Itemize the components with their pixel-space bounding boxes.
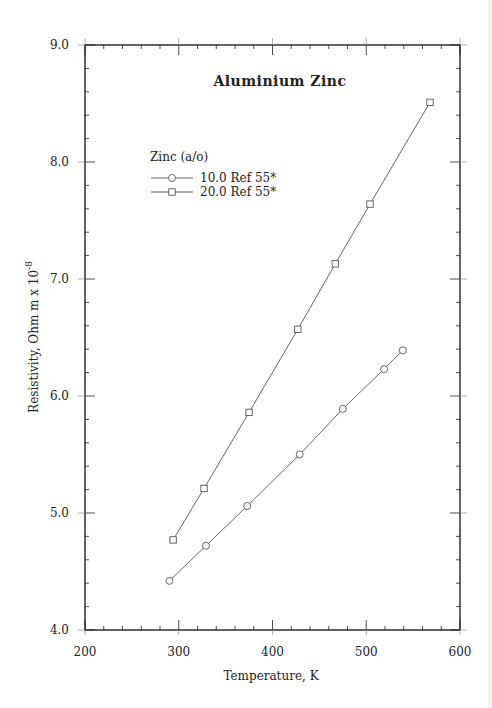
x-tick-label: 400	[261, 645, 284, 659]
series-circle	[166, 347, 406, 584]
square-marker-icon	[201, 485, 207, 491]
plot-frame	[85, 45, 460, 630]
square-marker-icon	[332, 261, 338, 267]
circle-marker-icon	[381, 366, 388, 373]
square-marker-icon	[169, 189, 175, 195]
chart-title: Aluminium Zinc	[212, 73, 346, 89]
chart: 2003004005006004.05.06.07.08.09.0 Alumin…	[0, 0, 492, 708]
plot-border	[85, 45, 460, 630]
legend-label: 20.0 Ref 55*	[200, 185, 276, 199]
circle-marker-icon	[202, 542, 209, 549]
circle-marker-icon	[169, 175, 176, 182]
square-marker-icon	[367, 201, 373, 207]
y-tick-label: 4.0	[50, 623, 69, 637]
legend-title: Zinc (a/o)	[150, 150, 208, 164]
circle-marker-icon	[399, 347, 406, 354]
y-axis-label-exponent: -8	[24, 261, 34, 270]
circle-marker-icon	[166, 577, 173, 584]
tick-labels: 2003004005006004.05.06.07.08.09.0	[50, 38, 472, 659]
circle-marker-icon	[339, 405, 346, 412]
square-marker-icon	[295, 326, 301, 332]
y-tick-label: 7.0	[50, 272, 69, 286]
legend-items: 10.0 Ref 55*20.0 Ref 55*	[151, 171, 276, 199]
axis-ticks	[78, 38, 467, 635]
y-tick-label: 5.0	[50, 506, 69, 520]
series-line	[173, 102, 430, 540]
x-axis-label: Temperature, K	[223, 669, 319, 683]
legend-item: 20.0 Ref 55*	[151, 185, 276, 199]
y-tick-label: 8.0	[50, 155, 69, 169]
square-marker-icon	[170, 537, 176, 543]
y-tick-label: 9.0	[50, 38, 69, 52]
series-square	[170, 99, 433, 543]
legend-item: 10.0 Ref 55*	[151, 171, 276, 185]
x-tick-label: 200	[74, 645, 97, 659]
y-tick-label: 6.0	[50, 389, 69, 403]
square-marker-icon	[246, 409, 252, 415]
y-axis-label: Resistivity, Ohm m x 10-8	[24, 261, 41, 413]
y-axis-label-text: Resistivity, Ohm m x 10	[27, 270, 41, 413]
legend: Zinc (a/o) 10.0 Ref 55*20.0 Ref 55*	[150, 150, 276, 199]
x-tick-label: 500	[355, 645, 378, 659]
legend-label: 10.0 Ref 55*	[200, 171, 276, 185]
circle-marker-icon	[244, 502, 251, 509]
page-edge	[488, 0, 492, 708]
x-tick-label: 300	[167, 645, 190, 659]
x-tick-label: 600	[449, 645, 472, 659]
square-marker-icon	[427, 99, 433, 105]
circle-marker-icon	[296, 451, 303, 458]
